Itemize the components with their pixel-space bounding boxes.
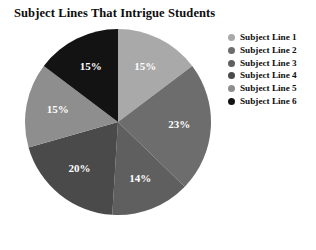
legend-item-2[interactable]: Subject Line 2 [228,45,316,57]
pie-slice-label: 15% [134,60,156,72]
legend-item-1[interactable]: Subject Line 1 [228,32,316,44]
legend-swatch-icon [228,98,235,105]
legend-item-label: Subject Line 2 [240,45,297,56]
page-title: Subject Lines That Intrigue Students [14,6,215,21]
pie-chart: 15%23%14%20%15%15% [24,28,212,216]
pie-slice-label: 14% [129,172,151,184]
legend-item-label: Subject Line 5 [240,83,297,94]
legend-swatch-icon [228,60,235,67]
legend-item-5[interactable]: Subject Line 5 [228,83,316,95]
pie-slice-label: 20% [69,162,91,174]
legend-swatch-icon [228,47,235,54]
legend-item-6[interactable]: Subject Line 6 [228,95,316,107]
pie-slice-label: 15% [47,103,69,115]
legend-item-3[interactable]: Subject Line 3 [228,57,316,69]
legend-swatch-icon [228,34,235,41]
pie-chart-svg: 15%23%14%20%15%15% [24,28,212,216]
legend-item-label: Subject Line 1 [240,32,297,43]
legend-item-label: Subject Line 6 [240,96,297,107]
pie-slice-label: 15% [80,60,102,72]
chart-page: Subject Lines That Intrigue Students 15%… [0,0,316,250]
legend-item-label: Subject Line 3 [240,58,297,69]
legend-item-label: Subject Line 4 [240,70,297,81]
legend-item-4[interactable]: Subject Line 4 [228,70,316,82]
legend: Subject Line 1Subject Line 2Subject Line… [228,32,316,108]
pie-slice-label: 23% [168,118,190,130]
legend-swatch-icon [228,72,235,79]
legend-swatch-icon [228,85,235,92]
